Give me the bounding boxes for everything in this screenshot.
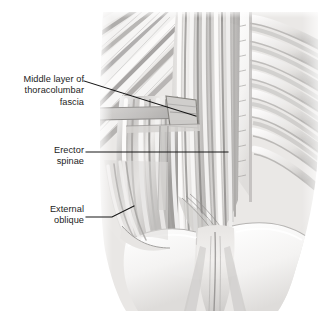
label-oblique-line-1: External <box>50 204 84 215</box>
left-margin <box>0 0 100 311</box>
label-external-oblique: External oblique <box>50 204 84 227</box>
edge-fade-right <box>302 10 326 311</box>
label-erector-line-1: Erector <box>54 145 84 156</box>
anatomy-illustration <box>0 0 326 311</box>
top-margin <box>0 0 326 11</box>
body-field <box>85 0 326 311</box>
label-fascia-line-3: fascia <box>24 97 85 108</box>
label-erector-spinae: Erector spinae <box>54 145 84 168</box>
label-erector-line-2: spinae <box>54 156 84 167</box>
label-fascia-line-2: thoracolumbar <box>24 85 85 96</box>
label-oblique-line-2: oblique <box>50 215 84 226</box>
label-fascia-line-1: Middle layer of <box>24 74 85 85</box>
label-middle-layer-thoracolumbar-fascia: Middle layer of thoracolumbar fascia <box>24 74 85 108</box>
anatomical-figure: Middle layer of thoracolumbar fascia Ere… <box>0 0 326 311</box>
